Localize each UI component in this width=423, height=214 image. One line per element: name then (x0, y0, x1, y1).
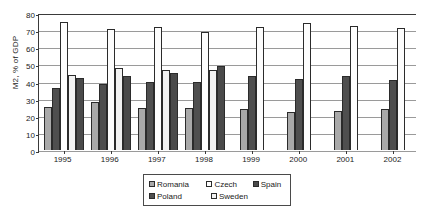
y-tick-mark (36, 135, 39, 136)
y-tick-label: 50 (26, 62, 35, 71)
bar-group (322, 14, 369, 150)
bar-romania-2000 (287, 112, 295, 150)
gridline: 0 (39, 151, 416, 152)
bar-romania-2001 (334, 111, 342, 150)
bar-group (181, 14, 228, 150)
y-tick-label: 0 (31, 148, 35, 157)
bar-chart: M2, % of GDP 80706050403020100 199519961… (0, 0, 423, 214)
legend-label: Czech (214, 180, 237, 189)
x-tick-mark (393, 151, 394, 154)
y-tick-label: 10 (26, 130, 35, 139)
bar-spain-1995 (76, 78, 84, 150)
y-tick-mark (36, 15, 39, 16)
legend-label: Poland (157, 192, 182, 201)
x-tick-label: 2000 (275, 155, 322, 164)
bar-group (87, 14, 134, 150)
legend-item-romania[interactable]: Romania (149, 180, 206, 189)
legend-swatch-icon (253, 181, 259, 187)
x-tick-mark (205, 151, 206, 154)
legend-item-sweden[interactable]: Sweden (211, 192, 261, 201)
bar-romania-2002 (381, 109, 389, 150)
bar-czech-1999 (256, 27, 264, 150)
legend-item-czech[interactable]: Czech (206, 180, 252, 189)
y-axis-title: M2, % of GDP (11, 18, 20, 108)
y-tick-mark (36, 84, 39, 85)
plot-area: 80706050403020100 (38, 14, 416, 152)
bar-czech-1998 (201, 32, 209, 150)
bar-group (275, 14, 322, 150)
bar-poland-2001 (342, 76, 350, 150)
bar-group (369, 14, 416, 150)
legend-label: Spain (261, 180, 281, 189)
y-tick-mark (36, 66, 39, 67)
bar-czech-1997 (154, 27, 162, 150)
bar-poland-1996 (99, 84, 107, 150)
x-tick-mark (64, 151, 65, 154)
x-tick-mark (158, 151, 159, 154)
bar-poland-1998 (193, 82, 201, 151)
bar-poland-1995 (52, 88, 60, 150)
legend-swatch-icon (149, 181, 155, 187)
legend-label: Sweden (219, 192, 248, 201)
bar-group (134, 14, 181, 150)
legend-swatch-icon (149, 193, 155, 199)
bar-romania-1997 (138, 108, 146, 150)
bar-poland-1997 (146, 82, 154, 151)
x-tick-label: 1997 (133, 155, 180, 164)
y-tick-label: 20 (26, 113, 35, 122)
y-tick-mark (36, 49, 39, 50)
bar-spain-1997 (170, 73, 178, 150)
x-tick-label: 1996 (86, 155, 133, 164)
bar-sweden-1998 (209, 70, 217, 150)
x-tick-label: 2002 (369, 155, 416, 164)
x-tick-label: 1999 (228, 155, 275, 164)
x-tick-mark (299, 151, 300, 154)
bar-poland-1999 (248, 76, 256, 150)
legend-item-spain[interactable]: Spain (253, 180, 286, 189)
bar-czech-1995 (60, 22, 68, 150)
bar-romania-1996 (91, 102, 99, 150)
bar-czech-2000 (303, 23, 311, 150)
bar-group (40, 14, 87, 150)
x-axis-labels: 19951996199719981999200020012002 (39, 155, 416, 164)
bar-romania-1998 (185, 108, 193, 150)
bar-group (228, 14, 275, 150)
bar-poland-2002 (389, 80, 397, 150)
bar-sweden-1995 (68, 75, 76, 150)
x-tick-label: 1998 (180, 155, 227, 164)
y-tick-label: 40 (26, 79, 35, 88)
bar-sweden-1997 (162, 70, 170, 150)
bar-spain-1996 (123, 76, 131, 150)
x-tick-mark (346, 151, 347, 154)
legend-label: Romania (157, 180, 189, 189)
bar-romania-1999 (240, 109, 248, 150)
bar-sweden-1996 (115, 68, 123, 150)
y-tick-label: 80 (26, 11, 35, 20)
x-tick-mark (252, 151, 253, 154)
legend-row-2: PolandSweden (149, 190, 286, 202)
bar-romania-1995 (44, 107, 52, 150)
legend-swatch-icon (211, 193, 217, 199)
x-tick-mark (111, 151, 112, 154)
bar-czech-1996 (107, 29, 115, 150)
y-tick-label: 60 (26, 45, 35, 54)
legend-row-1: RomaniaCzechSpain (149, 178, 286, 190)
bar-poland-2000 (295, 79, 303, 150)
bar-czech-2002 (397, 28, 405, 150)
y-tick-label: 30 (26, 96, 35, 105)
x-tick-label: 2001 (322, 155, 369, 164)
bar-groups (40, 14, 416, 150)
bar-czech-2001 (350, 26, 358, 150)
y-tick-mark (36, 101, 39, 102)
y-tick-label: 70 (26, 28, 35, 37)
y-tick-mark (36, 32, 39, 33)
legend-swatch-icon (206, 181, 212, 187)
y-tick-mark (36, 118, 39, 119)
bar-spain-1998 (217, 66, 225, 150)
x-tick-label: 1995 (39, 155, 86, 164)
y-tick-mark (36, 152, 39, 153)
legend-item-poland[interactable]: Poland (149, 192, 211, 201)
chart-legend: RomaniaCzechSpain PolandSweden (143, 174, 291, 206)
